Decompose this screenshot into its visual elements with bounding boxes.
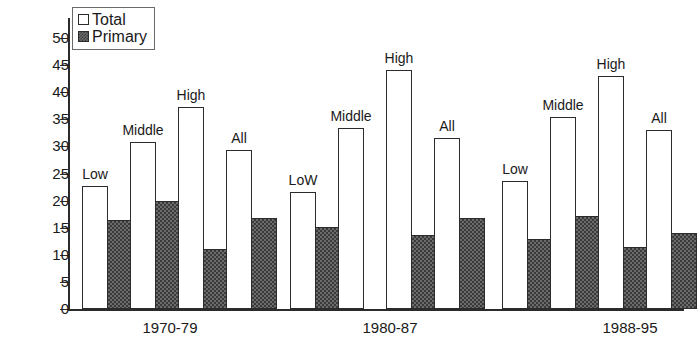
bar-total xyxy=(290,192,316,309)
y-axis-tick: 20 xyxy=(0,201,69,202)
bar-group-label: LoW xyxy=(273,173,333,187)
y-axis-tick-label: 45 xyxy=(17,57,69,72)
bar-primary xyxy=(459,218,485,309)
bar-total xyxy=(434,138,460,309)
legend-swatch-primary-icon xyxy=(78,31,89,42)
bar-total xyxy=(598,76,624,309)
bar-total xyxy=(550,117,576,309)
y-axis-tick-label: 40 xyxy=(17,84,69,99)
legend: Total Primary xyxy=(72,7,155,50)
y-axis-tick: 30 xyxy=(0,146,69,147)
y-axis-tick: 10 xyxy=(0,255,69,256)
bar-group-label: All xyxy=(417,119,477,133)
bar-group-label: High xyxy=(581,57,641,71)
legend-item-total: Total xyxy=(78,11,147,28)
bar-total xyxy=(646,130,672,309)
y-axis-tick: 15 xyxy=(0,228,69,229)
bar-total xyxy=(178,107,204,309)
y-axis-tick: 45 xyxy=(0,65,69,66)
bar-total xyxy=(130,142,156,309)
y-axis-tick-label: 0 xyxy=(17,301,69,316)
legend-item-primary: Primary xyxy=(78,28,147,45)
x-axis-label-1988-95: 1988-95 xyxy=(570,320,690,335)
bar-primary xyxy=(251,218,277,309)
y-axis-tick: 40 xyxy=(0,92,69,93)
bar-total xyxy=(338,128,364,309)
y-axis-tick-label: 15 xyxy=(17,220,69,235)
bar-group-label: Low xyxy=(65,167,125,181)
y-axis-tick: 0 xyxy=(0,309,69,310)
y-axis-tick-label: 50 xyxy=(17,30,69,45)
y-axis-tick-label: 25 xyxy=(17,166,69,181)
bar-group-label: Middle xyxy=(321,109,381,123)
legend-label-total: Total xyxy=(92,12,126,28)
y-axis-tick: 5 xyxy=(0,282,69,283)
y-axis-tick-label: 20 xyxy=(17,193,69,208)
bar-group-label: High xyxy=(369,51,429,65)
bar-group-label: Low xyxy=(485,162,545,176)
bar-primary xyxy=(671,233,697,309)
y-axis-tick-label: 10 xyxy=(17,247,69,262)
bar-group-label: Middle xyxy=(533,98,593,112)
plot-area: LowMiddleHighAllLoWMiddleHighAllLowMiddl… xyxy=(68,18,684,310)
y-axis-tick: 25 xyxy=(0,174,69,175)
x-axis-label-1970-79: 1970-79 xyxy=(110,320,230,335)
x-axis-label-1980-87: 1980-87 xyxy=(330,320,450,335)
bar-group-label: Middle xyxy=(113,123,173,137)
bar-total xyxy=(226,150,252,309)
y-axis-tick-label: 35 xyxy=(17,111,69,126)
bar-total xyxy=(502,181,528,309)
bar-group-label: High xyxy=(161,88,221,102)
bar-total xyxy=(386,70,412,309)
y-axis-tick: 35 xyxy=(0,119,69,120)
y-axis-tick-label: 30 xyxy=(17,138,69,153)
bar-total xyxy=(82,186,108,309)
bar-group-label: All xyxy=(209,131,269,145)
bar-group-label: All xyxy=(629,111,689,125)
legend-label-primary: Primary xyxy=(92,29,147,45)
y-axis-tick: 50 xyxy=(0,38,69,39)
y-axis-tick-label: 5 xyxy=(17,274,69,289)
legend-swatch-total-icon xyxy=(78,14,89,25)
